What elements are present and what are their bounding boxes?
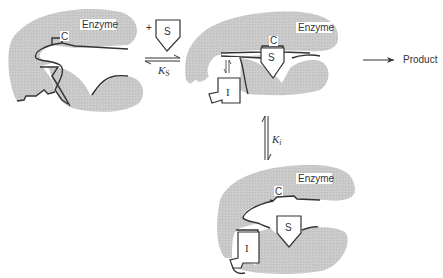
enzyme-free-label: Enzyme: [82, 19, 119, 30]
enzyme-esi-inhibitor-label: I: [245, 242, 249, 254]
enzyme-esi-label: Enzyme: [298, 173, 335, 184]
equilibrium-ki: Ki: [262, 116, 282, 160]
plus-sign: +: [146, 22, 152, 33]
enzyme-es-inhibitor: [209, 78, 240, 103]
enzyme-es-site-label: C: [270, 35, 277, 46]
enzyme-free: Enzyme C: [8, 9, 143, 112]
enzyme-esi-substrate-label: S: [285, 222, 292, 233]
substrate-label: S: [164, 26, 171, 37]
enzyme-es-label: Enzyme: [298, 22, 335, 33]
ki-constant: Ki: [271, 133, 282, 147]
enzyme-es-inhibitor-label: I: [226, 86, 230, 98]
enzyme-free-site-label: C: [61, 31, 68, 42]
ks-constant: KS: [157, 64, 170, 78]
enzyme-esi-site-label: C: [275, 186, 282, 197]
enzyme-substrate-complex: Enzyme C S I: [185, 12, 338, 103]
enzyme-es-substrate-label: S: [268, 52, 275, 63]
product-arrow: Product: [363, 54, 438, 65]
product-label: Product: [403, 54, 438, 65]
enzyme-inhibition-diagram: Enzyme C + S KS Enzyme C S: [0, 0, 443, 278]
enzyme-es-lower-lobe: [240, 58, 329, 95]
substrate-addition: + S: [146, 20, 180, 51]
equilibrium-ks: KS: [145, 55, 180, 78]
enzyme-substrate-inhibitor-complex: Enzyme C S I: [217, 165, 355, 274]
